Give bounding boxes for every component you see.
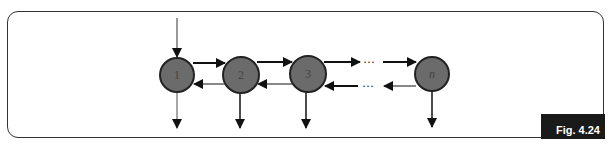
node-3: 3 xyxy=(290,56,326,92)
ellipsis-forward: ··· xyxy=(363,55,375,69)
svg-text:3: 3 xyxy=(305,67,311,81)
svg-text:2: 2 xyxy=(238,68,244,82)
node-2: 2 xyxy=(223,57,259,93)
node-1: 1 xyxy=(160,58,194,92)
svg-text:n: n xyxy=(429,67,435,81)
state-transition-diagram: ··· ··· 1 2 3 n xyxy=(0,0,614,147)
ellipsis-backward: ··· xyxy=(362,79,374,93)
svg-text:1: 1 xyxy=(174,68,180,82)
figure-label: Fig. 4.24 xyxy=(541,114,605,139)
node-n: n xyxy=(415,57,449,91)
